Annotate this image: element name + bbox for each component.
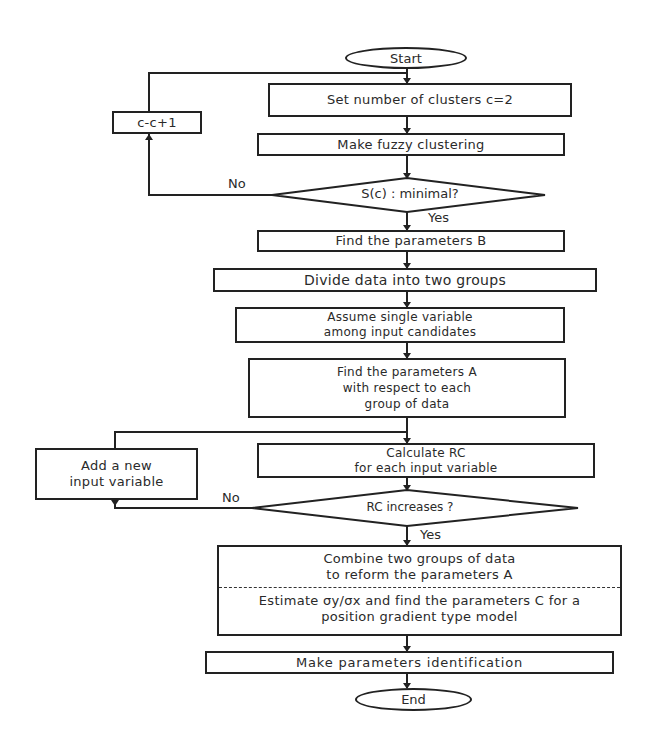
set-clusters-label: Set number of clusters c=2: [327, 92, 513, 108]
find-b-label: Find the parameters B: [336, 233, 487, 249]
divide-step: Divide data into two groups: [213, 268, 597, 292]
find-b-step: Find the parameters B: [257, 230, 565, 252]
divide-label: Divide data into two groups: [304, 272, 506, 288]
assume-line-1: Assume single variable: [327, 310, 473, 325]
assume-line-2: among input candidates: [324, 325, 477, 340]
branch-yes-label-2: Yes: [420, 527, 441, 542]
increment-c-step: c-c+1: [112, 111, 202, 134]
branch-no-label-2: No: [222, 490, 240, 505]
combine-line-1: Combine two groups of data: [323, 551, 515, 567]
calc-rc-line-1: Calculate RC: [386, 446, 466, 461]
estimate-section: Estimate σy/σx and find the parameters C…: [219, 589, 620, 629]
increment-c-label: c-c+1: [137, 115, 177, 131]
add-var-line-2: input variable: [69, 474, 163, 490]
end-label: End: [401, 692, 426, 707]
combine-estimate-step: Combine two groups of data to reform the…: [217, 545, 622, 636]
branch-no-label: No: [228, 176, 246, 191]
calc-rc-line-2: for each input variable: [354, 461, 497, 476]
estimate-line-2: position gradient type model: [321, 609, 518, 625]
find-a-step: Find the parameters A with respect to ea…: [248, 358, 566, 418]
branch-yes-label: Yes: [428, 210, 449, 225]
estimate-line-1: Estimate σy/σx and find the parameters C…: [259, 593, 580, 609]
decision-sc-minimal-label: S(c) : minimal?: [330, 186, 490, 201]
add-variable-step: Add a new input variable: [35, 448, 198, 500]
find-a-line-1: Find the parameters A: [337, 364, 477, 380]
combine-section: Combine two groups of data to reform the…: [219, 547, 620, 587]
identification-label: Make parameters identification: [296, 655, 523, 671]
find-a-line-3: group of data: [365, 396, 450, 412]
end-terminal: End: [355, 688, 472, 711]
fuzzy-clustering-label: Make fuzzy clustering: [337, 137, 484, 153]
fuzzy-clustering-step: Make fuzzy clustering: [257, 133, 565, 156]
section-divider: [219, 587, 620, 588]
set-clusters-step: Set number of clusters c=2: [268, 83, 572, 117]
find-a-line-2: with respect to each: [343, 380, 472, 396]
start-terminal: Start: [345, 47, 467, 69]
calculate-rc-step: Calculate RC for each input variable: [257, 443, 595, 478]
combine-line-2: to reform the parameters A: [326, 567, 512, 583]
add-var-line-1: Add a new: [81, 458, 152, 474]
identification-step: Make parameters identification: [205, 651, 614, 674]
assume-variable-step: Assume single variable among input candi…: [235, 307, 565, 343]
start-label: Start: [390, 51, 422, 66]
decision-rc-increases-label: RC increases ?: [335, 500, 485, 514]
